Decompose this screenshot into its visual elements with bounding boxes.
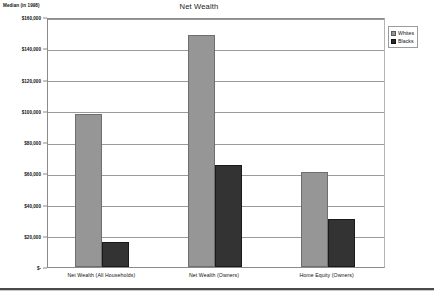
bar-blacks-0 — [102, 242, 129, 267]
legend-item-whites[interactable]: Whites — [391, 29, 414, 37]
bar-whites-2 — [301, 172, 328, 267]
chart-title: Net Wealth — [0, 2, 434, 11]
x-axis-category-label: Net Wealth (All Households) — [67, 272, 135, 278]
x-axis-category-label: Net Wealth (Owners) — [189, 272, 239, 278]
y-axis-tick-label: $80,000 — [24, 141, 41, 146]
legend-swatch-icon — [391, 31, 396, 36]
x-axis-labels: Net Wealth (All Households)Net Wealth (O… — [47, 270, 385, 284]
chart-title-text: Net Wealth — [180, 2, 219, 11]
y-axis-tick-label: $- — [37, 266, 41, 271]
legend-swatch-icon — [391, 39, 396, 44]
x-axis-category-label: Home Equity (Owners) — [299, 272, 353, 278]
legend-label: Blacks — [398, 38, 414, 44]
y-axis: $-$20,000$40,000$60,000$80,000$100,000$1… — [0, 18, 47, 268]
bar-blacks-1 — [215, 165, 242, 267]
legend-label: Whites — [398, 30, 414, 36]
legend: WhitesBlacks — [388, 26, 418, 48]
y-axis-tick-label: $60,000 — [24, 172, 41, 177]
bar-blacks-2 — [328, 219, 355, 267]
chart-screenshot: Median (in 1998) Net Wealth $-$20,000$40… — [0, 0, 434, 291]
y-axis-tick-label: $140,000 — [22, 47, 41, 52]
plot-area — [47, 18, 385, 268]
bars-layer — [48, 19, 384, 267]
y-axis-tick-label: $120,000 — [22, 78, 41, 83]
bar-whites-0 — [75, 114, 102, 267]
legend-item-blacks[interactable]: Blacks — [391, 37, 414, 45]
y-axis-tick-label: $160,000 — [22, 16, 41, 21]
y-axis-tick-label: $40,000 — [24, 203, 41, 208]
bar-whites-1 — [188, 35, 215, 267]
y-axis-tick-label: $20,000 — [24, 234, 41, 239]
y-axis-tick-label: $100,000 — [22, 109, 41, 114]
